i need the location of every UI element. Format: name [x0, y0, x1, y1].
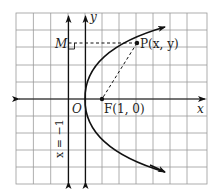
origin-label: O: [72, 102, 82, 116]
foot-m-label: M: [54, 37, 68, 51]
y-axis-label: y: [89, 10, 97, 24]
segment-pf: [102, 43, 137, 99]
directrix-label: x = −1: [53, 119, 66, 158]
x-axis-label: x: [197, 102, 204, 116]
focus-point: [100, 97, 104, 101]
point-p-label: P(x, y): [140, 37, 179, 51]
right-angle-marker: [69, 43, 75, 49]
focus-label: F(1, 0): [104, 102, 145, 116]
point-p: [135, 41, 139, 45]
parabola-diagram: y x O F(1, 0) P(x, y) M x = −1: [0, 0, 217, 194]
